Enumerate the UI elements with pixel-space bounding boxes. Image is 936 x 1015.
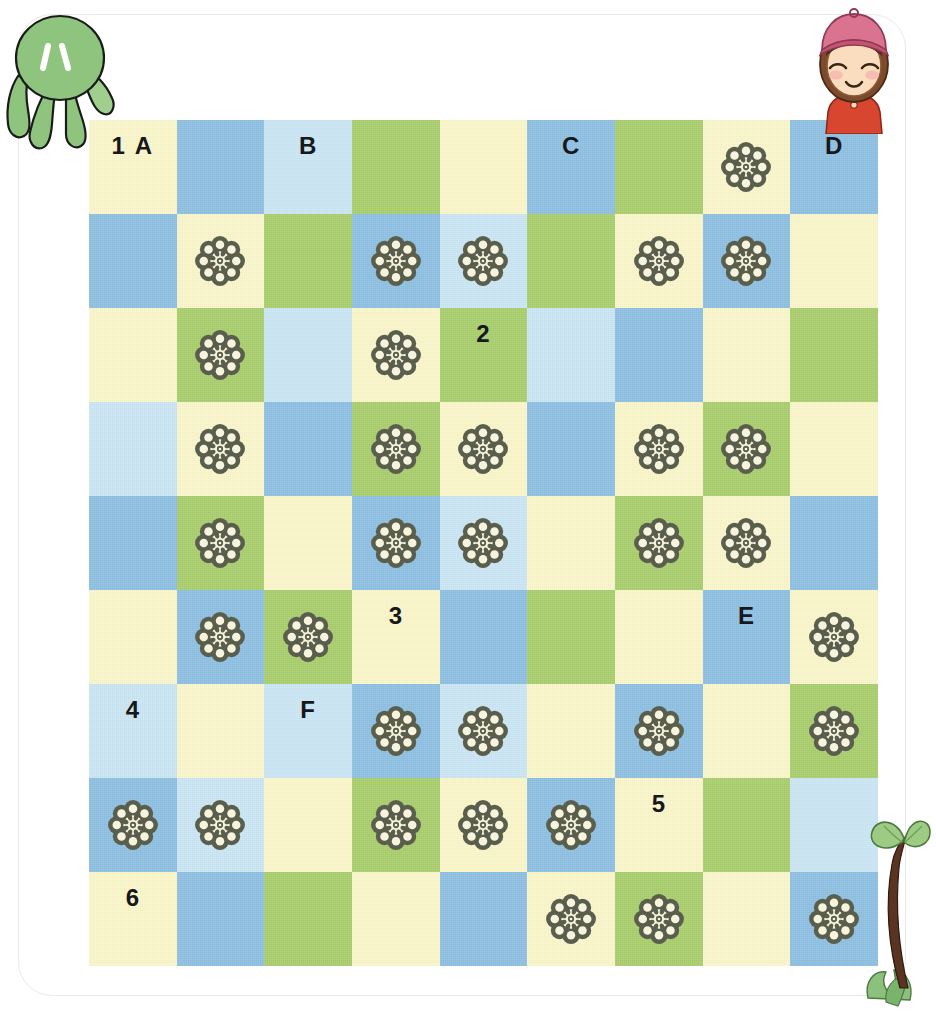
grid-cell[interactable] [615,214,703,308]
grid-cell[interactable] [615,120,703,214]
checkerboard-grid: 1 ABC D [89,120,878,966]
grid-cell[interactable] [264,590,352,684]
grid-cell[interactable] [352,308,440,402]
grid-cell[interactable] [440,778,528,872]
grid-cell[interactable] [703,496,791,590]
grid-cell[interactable] [440,496,528,590]
grid-cell[interactable] [177,308,265,402]
grid-cell[interactable]: F [264,684,352,778]
flower-medallion-icon [543,797,599,853]
grid-cell[interactable] [527,496,615,590]
flower-medallion-icon [368,327,424,383]
grid-cell[interactable] [352,496,440,590]
grid-cell[interactable] [177,684,265,778]
grid-cell[interactable] [440,684,528,778]
flower-medallion-icon [631,703,687,759]
grid-cell[interactable] [264,402,352,496]
grid-cell[interactable] [177,120,265,214]
grid-cell[interactable] [89,778,177,872]
grid-cell[interactable] [527,590,615,684]
grid-cell[interactable] [703,214,791,308]
grid-cell[interactable]: E [703,590,791,684]
grid-cell[interactable] [527,872,615,966]
flower-medallion-icon [368,421,424,477]
grid-cell[interactable] [615,590,703,684]
grid-cell[interactable]: 5 [615,778,703,872]
grid-cell[interactable] [89,214,177,308]
grid-cell[interactable] [89,590,177,684]
grid-cell[interactable]: 3 [352,590,440,684]
grid-cell-label: D [825,134,843,158]
grid-cell[interactable] [352,402,440,496]
grid-cell[interactable]: 2 [440,308,528,402]
grid-cell[interactable] [89,308,177,402]
grid-cell[interactable] [177,590,265,684]
grid-cell[interactable] [703,120,791,214]
flower-medallion-icon [455,703,511,759]
grid-cell-label: E [738,604,755,628]
grid-cell[interactable] [440,402,528,496]
grid-cell[interactable] [790,402,878,496]
grid-cell[interactable] [440,214,528,308]
flower-medallion-icon [368,703,424,759]
grid-cell[interactable] [177,496,265,590]
grid-cell[interactable] [527,684,615,778]
grid-cell-label: 3 [389,604,403,628]
grid-cell[interactable] [352,214,440,308]
grid-cell[interactable] [790,214,878,308]
grid-cell[interactable] [790,308,878,402]
flower-medallion-icon [455,233,511,289]
grid-cell[interactable] [264,872,352,966]
grid-cell[interactable] [89,402,177,496]
flower-medallion-icon [806,609,862,665]
grid-cell[interactable] [177,402,265,496]
flower-medallion-icon [280,609,336,665]
flower-medallion-icon [192,609,248,665]
grid-cell[interactable] [352,778,440,872]
grid-cell[interactable] [790,590,878,684]
grid-cell-label: 5 [652,792,666,816]
grid-cell[interactable] [177,778,265,872]
grid-cell[interactable]: B [264,120,352,214]
grid-cell[interactable] [527,308,615,402]
grid-cell[interactable] [264,778,352,872]
octopus-character-icon [4,10,126,158]
grid-cell[interactable] [703,308,791,402]
grid-cell[interactable] [264,496,352,590]
grid-cell[interactable] [352,872,440,966]
grid-cell[interactable] [703,778,791,872]
grid-cell[interactable]: C [527,120,615,214]
grid-cell[interactable] [790,684,878,778]
grid-cell[interactable] [440,872,528,966]
flower-medallion-icon [631,233,687,289]
grid-cell[interactable] [177,214,265,308]
grid-cell[interactable]: 6 [89,872,177,966]
grid-cell[interactable] [440,590,528,684]
grid-cell[interactable] [527,214,615,308]
grid-cell[interactable] [352,684,440,778]
grid-cell[interactable] [703,872,791,966]
grid-cell[interactable] [703,402,791,496]
grid-cell[interactable] [615,308,703,402]
flower-medallion-icon [455,797,511,853]
grid-cell[interactable] [89,496,177,590]
flower-medallion-icon [368,515,424,571]
grid-cell[interactable] [615,872,703,966]
flower-medallion-icon [368,233,424,289]
grid-cell[interactable]: D [790,120,878,214]
grid-cell[interactable]: 4 [89,684,177,778]
grid-cell[interactable] [615,496,703,590]
grid-cell[interactable] [615,684,703,778]
grid-cell[interactable] [527,402,615,496]
grid-cell[interactable] [177,872,265,966]
flower-medallion-icon [631,421,687,477]
grid-cell[interactable] [527,778,615,872]
grid-cell[interactable] [615,402,703,496]
grid-cell[interactable] [790,496,878,590]
grid-cell[interactable] [352,120,440,214]
grid-cell[interactable] [264,214,352,308]
grid-cell[interactable] [264,308,352,402]
grid-cell[interactable] [703,684,791,778]
grid-cell-label: 6 [126,886,140,910]
grid-cell[interactable] [440,120,528,214]
